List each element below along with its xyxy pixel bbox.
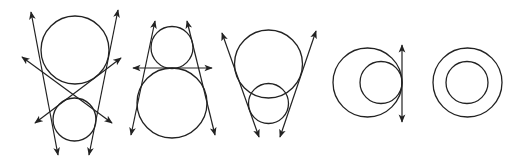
circle: [151, 27, 193, 69]
circle: [446, 62, 488, 104]
circle: [137, 68, 207, 138]
circle: [360, 62, 402, 104]
concentric-circles-no-tangents: [433, 48, 502, 117]
tangent-line: [31, 12, 58, 155]
tangent-line: [187, 21, 215, 135]
circle: [249, 84, 289, 124]
circle: [433, 48, 502, 117]
tangent-line: [22, 57, 112, 123]
externally-tangent-circles-three-tangents: [131, 21, 215, 138]
intersecting-circles-two-tangents: [222, 30, 316, 137]
circle: [41, 16, 109, 84]
internally-tangent-circles-one-tangent: [333, 45, 402, 122]
circle: [333, 48, 402, 117]
circle: [235, 30, 303, 98]
tangent-line: [35, 58, 121, 123]
tangent-line: [222, 33, 259, 137]
tangent-line: [131, 21, 155, 135]
separate-circles-four-tangents: [22, 10, 121, 155]
tangent-circles-diagram: [0, 0, 524, 159]
